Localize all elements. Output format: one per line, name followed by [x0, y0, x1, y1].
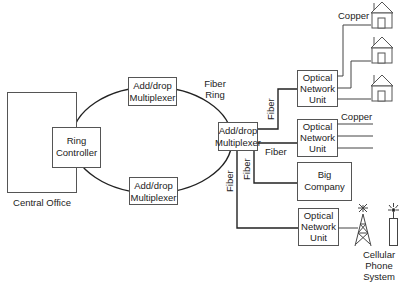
- copper-link-house-1: [337, 25, 371, 76]
- svg-text:Add/drop: Add/drop: [219, 125, 258, 136]
- fiber-label-company: Fiber: [241, 158, 252, 180]
- svg-text:Company: Company: [304, 181, 345, 192]
- fiber-label-up: Fiber: [265, 98, 276, 120]
- house-icon: [371, 2, 393, 28]
- onu-homes: Optical Network Unit: [298, 71, 338, 107]
- onu-copper: Optical Network Unit: [298, 120, 338, 157]
- add-drop-mux-bottom: Add/drop Multiplexer: [130, 178, 178, 205]
- svg-text:Network: Network: [300, 83, 335, 94]
- svg-text:Network: Network: [301, 221, 336, 232]
- fiber-label-down: Fiber: [224, 170, 235, 192]
- fiber-link-onu-homes: [257, 89, 297, 129]
- ring-controller: Ring Controller: [53, 128, 101, 168]
- cell-tower-icon: [355, 204, 371, 246]
- svg-text:Optical: Optical: [303, 72, 333, 83]
- copper-label-homes: Copper: [338, 10, 369, 21]
- svg-text:Multiplexer: Multiplexer: [131, 192, 177, 203]
- svg-text:Controller: Controller: [56, 147, 97, 158]
- fiber-ring-label: Fiber: [204, 78, 226, 89]
- svg-text:Big: Big: [318, 169, 332, 180]
- copper-label-lines: Copper: [341, 111, 372, 122]
- cell-phone-icon: [388, 203, 399, 246]
- network-diagram: Central Office Ring Controller Add/drop …: [0, 0, 405, 285]
- svg-text:Network: Network: [300, 132, 335, 143]
- house-icon: [371, 75, 393, 101]
- svg-text:Multiplexer: Multiplexer: [215, 137, 261, 148]
- copper-link-house-2: [337, 61, 371, 88]
- svg-text:Unit: Unit: [309, 143, 326, 154]
- big-company: Big Company: [298, 163, 352, 201]
- svg-text:Ring: Ring: [67, 135, 87, 146]
- cellular-label-2: Phone: [365, 260, 392, 271]
- cellular-label-3: System: [363, 271, 395, 282]
- svg-text:Add/drop: Add/drop: [134, 180, 173, 191]
- house-icon: [371, 37, 393, 63]
- svg-text:Optical: Optical: [303, 121, 333, 132]
- fiber-label-horizontal: Fiber: [265, 146, 287, 157]
- onu-cellular: Optical Network Unit: [299, 209, 339, 246]
- add-drop-mux-right: Add/drop Multiplexer: [215, 123, 261, 151]
- add-drop-mux-top: Add/drop Multiplexer: [129, 78, 177, 106]
- cellular-label-1: Cellular: [363, 249, 395, 260]
- central-office-label: Central Office: [13, 197, 71, 208]
- svg-text:Unit: Unit: [310, 232, 327, 243]
- svg-text:Optical: Optical: [304, 210, 334, 221]
- svg-text:Multiplexer: Multiplexer: [130, 92, 176, 103]
- fiber-ring-label-2: Ring: [205, 89, 225, 100]
- svg-text:Unit: Unit: [309, 94, 326, 105]
- svg-text:Add/drop: Add/drop: [133, 80, 172, 91]
